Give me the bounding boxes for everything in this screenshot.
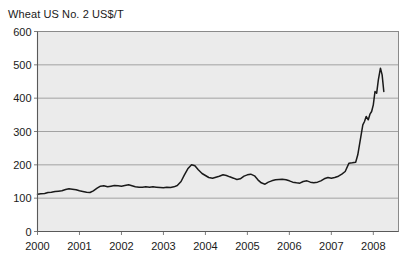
- x-axis-tick-label: 2001: [67, 240, 91, 252]
- y-axis-tick-label: 0: [25, 226, 31, 238]
- y-axis-tick-label: 500: [13, 59, 31, 71]
- x-axis-tick-label: 2000: [25, 240, 49, 252]
- wheat-price-chart: Wheat US No. 2 US$/T 0100200300400500600…: [0, 0, 420, 268]
- y-axis-tick-label: 600: [13, 26, 31, 38]
- y-axis-tick-label: 400: [13, 92, 31, 104]
- chart-plot-area: 0100200300400500600 20002001200220032004…: [0, 0, 420, 268]
- x-axis-tick-label: 2008: [361, 240, 385, 252]
- x-axis-tick-label: 2007: [319, 240, 343, 252]
- x-axis-tick-label: 2002: [109, 240, 133, 252]
- x-axis-tick-label: 2006: [277, 240, 301, 252]
- x-axis-tick-label: 2004: [193, 240, 217, 252]
- y-axis-tick-label: 100: [13, 192, 31, 204]
- x-axis-tick-label: 2003: [151, 240, 175, 252]
- y-axis-tick-label: 200: [13, 159, 31, 171]
- y-axis-tick-labels-group: 0100200300400500600: [13, 26, 31, 238]
- y-axis-tick-label: 300: [13, 126, 31, 138]
- x-axis-tick-labels-group: 200020012002200320042005200620072008: [25, 240, 385, 252]
- x-axis-tick-label: 2005: [235, 240, 259, 252]
